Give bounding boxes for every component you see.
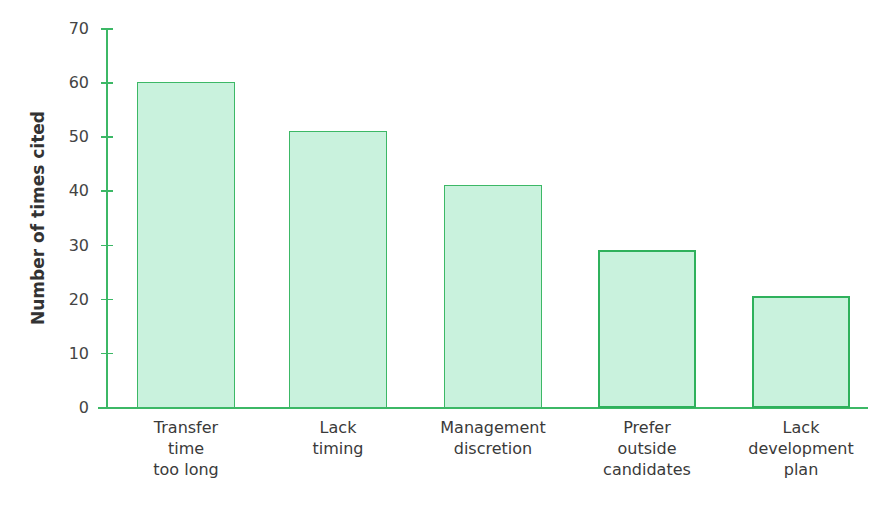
y-tick-label: 40: [49, 181, 89, 200]
y-axis-label: Number of times cited: [28, 111, 48, 325]
bar: [289, 131, 387, 408]
bar-chart: Number of times cited 010203040506070 Tr…: [0, 0, 893, 506]
y-tick-label: 50: [49, 127, 89, 146]
x-category-label: Lack development plan: [731, 417, 871, 480]
bar: [137, 82, 235, 408]
x-category-label: Prefer outside candidates: [577, 417, 717, 480]
y-tick-label: 30: [49, 235, 89, 254]
x-category-label: Lack timing: [268, 417, 408, 459]
y-tick-label: 70: [49, 19, 89, 38]
y-tick-label: 60: [49, 73, 89, 92]
bar: [444, 185, 542, 408]
y-tick-label: 20: [49, 289, 89, 308]
y-axis-line: [106, 28, 108, 408]
x-category-label: Transfer time too long: [116, 417, 256, 480]
y-tick-label: 10: [49, 343, 89, 362]
bar: [598, 250, 696, 408]
bar: [752, 296, 850, 408]
x-category-label: Management discretion: [423, 417, 563, 459]
y-tick-label: 0: [49, 398, 89, 417]
